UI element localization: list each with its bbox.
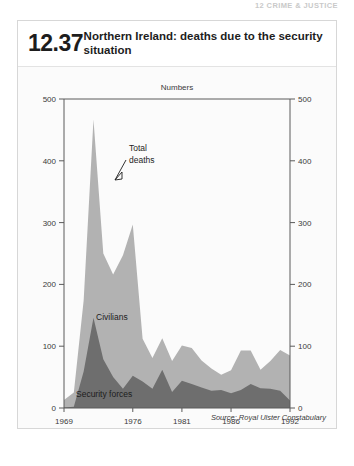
y-tick-label: 300 xyxy=(43,219,57,228)
y-tick-label: 100 xyxy=(298,342,312,351)
figure-title: Northern Ireland: deaths due to the secu… xyxy=(84,30,336,57)
total-deaths-label-line2: deaths xyxy=(129,155,155,165)
y-tick-label: 500 xyxy=(298,95,312,104)
y-axis-left: 0100200300400500 xyxy=(43,95,64,413)
total-deaths-label-line1: Total xyxy=(129,143,147,153)
total-deaths-annotation: Total deaths xyxy=(115,143,155,180)
units-label: Numbers xyxy=(18,83,336,92)
y-tick-label: 100 xyxy=(43,342,57,351)
y-tick-label: 0 xyxy=(52,404,57,413)
source-note: Source: Royal Ulster Constabulary xyxy=(211,413,326,422)
y-tick-label: 200 xyxy=(298,280,312,289)
figure-panel: 12.37 Northern Ireland: deaths due to th… xyxy=(17,20,337,429)
chart-plot-area: Numbers 0100200300400500 010020030040050… xyxy=(18,67,336,430)
figure-title-block: 12.37 Northern Ireland: deaths due to th… xyxy=(18,21,336,67)
running-header: 12 CRIME & JUSTICE xyxy=(0,1,354,10)
y-tick-label: 0 xyxy=(298,404,303,413)
x-tick-label: 1969 xyxy=(55,417,73,426)
figure-number: 12.37 xyxy=(18,30,84,57)
x-tick-label: 1981 xyxy=(173,417,191,426)
y-tick-label: 300 xyxy=(298,219,312,228)
security-forces-label: Security forces xyxy=(76,389,132,399)
y-tick-label: 200 xyxy=(43,280,57,289)
x-tick-label: 1976 xyxy=(124,417,142,426)
y-tick-label: 400 xyxy=(298,157,312,166)
area-chart-svg: 0100200300400500 0100200300400500 196919… xyxy=(18,67,336,430)
y-axis-right: 0100200300400500 xyxy=(290,95,312,413)
y-tick-label: 500 xyxy=(43,95,57,104)
civilians-label: Civilians xyxy=(96,312,128,322)
y-tick-label: 400 xyxy=(43,157,57,166)
